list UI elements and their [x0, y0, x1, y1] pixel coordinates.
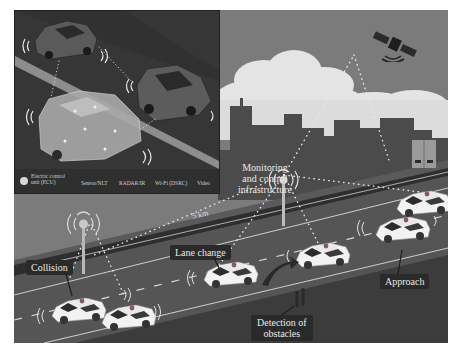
car-icon	[397, 191, 448, 217]
legend-video: Video	[197, 180, 210, 186]
inset-sensors: Electric control unit (ECU) Sensor/NLT R…	[14, 10, 220, 194]
figure-frame: Electric control unit (ECU) Sensor/NLT R…	[14, 10, 448, 343]
legend-wifi: Wi-Fi (DSRC)	[155, 180, 187, 186]
monitoring-infrastructure-label: Monitoring and control infrastructure	[235, 162, 295, 195]
approach-label: Approach	[380, 274, 429, 289]
car-icon	[296, 243, 350, 269]
lane-change-label: Lane change	[170, 245, 231, 260]
monitoring-line3: infrastructure	[235, 184, 295, 195]
legend-radar: RADAR/IR	[119, 180, 145, 186]
monitoring-line2: and control	[235, 173, 295, 184]
ecu-icon	[19, 176, 29, 186]
legend-ecu-line2: unit (ECU)	[31, 179, 65, 185]
detection-line1: Detection of	[257, 317, 307, 328]
inset-scene	[15, 11, 219, 169]
monitoring-line1: Monitoring	[235, 162, 295, 173]
car-icon	[376, 217, 430, 243]
legend-ecu: Electric control unit (ECU)	[31, 173, 65, 185]
car-icon	[204, 262, 258, 288]
detection-line2: obstacles	[257, 328, 307, 339]
lane-change-arrow	[262, 256, 299, 286]
car-icon	[102, 305, 156, 331]
sensor-legend: Electric control unit (ECU) Sensor/NLT R…	[15, 169, 219, 193]
collision-label: Collision	[26, 260, 73, 275]
detection-obstacles-label: Detection of obstacles	[251, 315, 313, 341]
car-icon	[52, 298, 106, 324]
legend-sensor: Sensor/NLT	[81, 180, 108, 186]
pedestrian-icon	[295, 288, 305, 307]
